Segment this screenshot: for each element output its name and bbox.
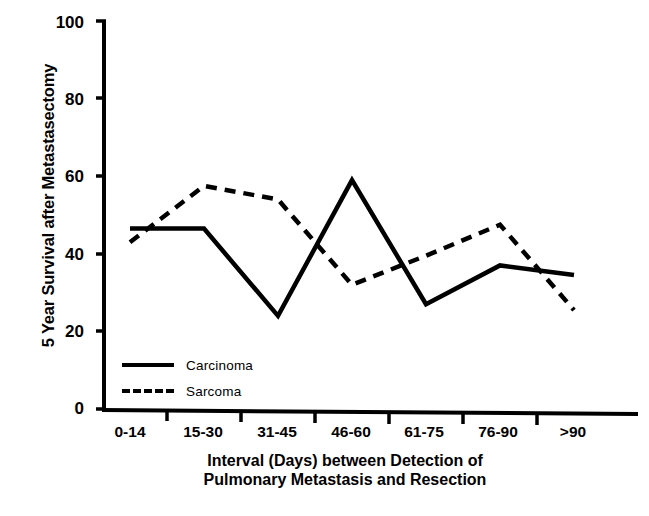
legend-item-carcinoma: Carcinoma [122, 352, 253, 378]
chart-legend: Carcinoma Sarcoma [122, 352, 253, 404]
series-line-carcinoma [130, 180, 574, 316]
series-line-sarcoma [130, 186, 574, 310]
plot-area [0, 0, 649, 516]
data-series-group [130, 180, 574, 316]
legend-label-carcinoma: Carcinoma [186, 358, 253, 373]
legend-item-sarcoma: Sarcoma [122, 378, 253, 404]
legend-label-sarcoma: Sarcoma [186, 384, 241, 399]
x-axis-line [102, 410, 638, 414]
legend-key-dashed-icon [122, 389, 174, 393]
legend-key-solid-icon [122, 363, 174, 367]
chart-figure: 5 Year Survival after Metastasectomy 100… [0, 0, 649, 516]
